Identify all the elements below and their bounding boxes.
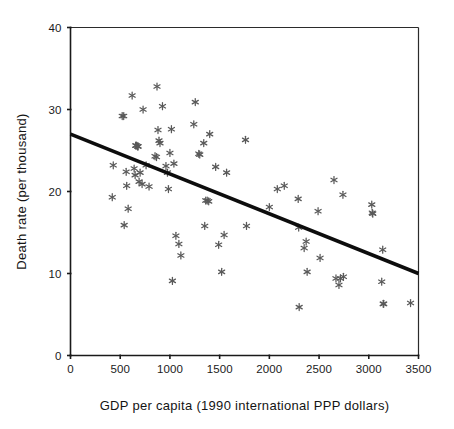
data-point-marker bbox=[243, 222, 249, 229]
x-tick-label: 1000 bbox=[157, 363, 183, 375]
data-point-marker bbox=[137, 169, 143, 176]
x-axis-ticks: 0500100015002000250030003500 bbox=[67, 355, 431, 375]
data-point-marker bbox=[124, 182, 130, 189]
x-axis-title: GDP per capita (1990 international PPP d… bbox=[100, 398, 390, 413]
data-point-marker bbox=[176, 240, 182, 247]
x-tick-label: 3500 bbox=[406, 363, 432, 375]
data-point-marker bbox=[129, 92, 135, 99]
trend-line bbox=[71, 134, 419, 273]
x-axis: 0500100015002000250030003500 bbox=[67, 355, 431, 375]
data-point-marker bbox=[296, 304, 302, 311]
data-point-marker bbox=[191, 121, 197, 128]
data-point-marker bbox=[155, 127, 161, 134]
data-point-marker bbox=[173, 232, 179, 239]
data-point-marker bbox=[295, 195, 301, 202]
data-point-marker bbox=[266, 204, 272, 211]
y-tick-label: 30 bbox=[49, 104, 62, 116]
data-point-marker bbox=[201, 140, 207, 147]
data-point-marker bbox=[154, 83, 160, 90]
data-point-marker bbox=[380, 246, 386, 253]
data-point-marker bbox=[163, 163, 169, 170]
data-point-marker bbox=[109, 194, 115, 201]
data-point-marker bbox=[242, 136, 248, 143]
y-axis-title: Death rate (per thousand) bbox=[14, 113, 29, 269]
data-point-marker bbox=[110, 162, 116, 169]
x-tick-label: 0 bbox=[67, 363, 74, 375]
data-point-marker bbox=[131, 165, 137, 172]
data-point-marker bbox=[207, 131, 213, 138]
data-point-marker bbox=[121, 222, 127, 229]
y-tick-label: 20 bbox=[49, 186, 62, 198]
y-axis-ticks: 010203040 bbox=[49, 22, 72, 362]
y-axis: 010203040 bbox=[49, 22, 72, 362]
scatter-markers bbox=[109, 83, 413, 311]
data-point-marker bbox=[216, 241, 222, 248]
data-point-marker bbox=[169, 277, 175, 284]
data-point-marker bbox=[213, 163, 219, 170]
data-point-marker bbox=[274, 186, 280, 193]
data-point-marker bbox=[381, 300, 387, 307]
data-point-marker bbox=[168, 126, 174, 133]
x-tick-label: 1500 bbox=[207, 363, 233, 375]
data-point-marker bbox=[408, 300, 414, 307]
data-point-marker bbox=[379, 278, 385, 285]
data-point-marker bbox=[146, 183, 152, 190]
plot-frame bbox=[71, 28, 419, 356]
data-point-marker bbox=[221, 231, 227, 238]
data-point-marker bbox=[317, 254, 323, 261]
x-tick-label: 3000 bbox=[356, 363, 382, 375]
x-tick-label: 500 bbox=[110, 363, 130, 375]
data-point-marker bbox=[315, 208, 321, 215]
x-tick-label: 2000 bbox=[256, 363, 282, 375]
data-point-marker bbox=[336, 281, 342, 288]
scatter-plot-figure: 010203040 0500100015002000250030003500 D… bbox=[0, 0, 454, 429]
data-point-marker bbox=[192, 99, 198, 106]
data-point-marker bbox=[281, 182, 287, 189]
data-point-marker bbox=[171, 160, 177, 167]
y-tick-label: 40 bbox=[49, 22, 62, 34]
data-point-marker bbox=[167, 149, 173, 156]
data-point-marker bbox=[304, 268, 310, 275]
data-point-marker bbox=[333, 275, 339, 282]
data-point-marker bbox=[219, 268, 225, 275]
y-tick-label: 0 bbox=[55, 350, 62, 362]
data-point-marker bbox=[340, 191, 346, 198]
data-point-marker bbox=[159, 103, 165, 110]
data-point-marker bbox=[331, 177, 337, 184]
data-point-marker bbox=[178, 252, 184, 259]
data-point-marker bbox=[140, 106, 146, 113]
data-point-marker bbox=[202, 222, 208, 229]
data-point-marker bbox=[125, 205, 131, 212]
data-point-marker bbox=[224, 169, 230, 176]
data-point-marker bbox=[369, 201, 375, 208]
data-point-marker bbox=[165, 186, 171, 193]
y-tick-label: 10 bbox=[49, 268, 62, 280]
data-point-marker bbox=[132, 172, 138, 179]
data-point-marker bbox=[123, 168, 129, 175]
x-tick-label: 2500 bbox=[306, 363, 332, 375]
chart-canvas: 010203040 0500100015002000250030003500 D… bbox=[0, 0, 454, 429]
